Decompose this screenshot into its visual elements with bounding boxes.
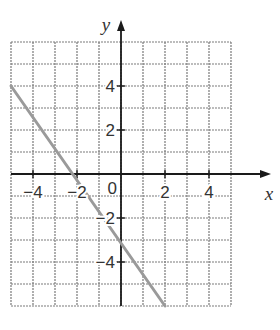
x-tick-label: −2 [67,183,86,202]
y-axis-label: y [100,14,111,35]
x-axis-arrow-icon [260,170,271,178]
coordinate-plane: −4−22442−2−40xy [0,0,280,330]
x-tick-label: −4 [23,183,42,202]
x-axis-label: x [264,183,274,204]
y-tick-label: 2 [106,121,115,140]
x-tick-label: 4 [204,183,213,202]
x-tick-label: 2 [160,183,169,202]
origin-label: 0 [108,179,117,198]
y-tick-label: 4 [106,77,115,96]
y-tick-label: −4 [96,253,115,272]
y-tick-label: −2 [96,209,115,228]
y-axis-arrow-icon [117,20,125,31]
